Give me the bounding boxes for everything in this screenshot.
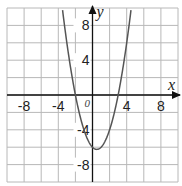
y-tick-label: 8 — [82, 17, 90, 33]
coordinate-plane: -8-44884-4-8 x y 0 — [0, 0, 182, 186]
x-tick-label: 8 — [157, 98, 165, 114]
x-tick-label: 4 — [123, 98, 131, 114]
axes — [7, 5, 181, 182]
x-axis-label: x — [167, 76, 175, 93]
y-axis-label: y — [95, 3, 105, 21]
y-axis-arrow-icon — [89, 5, 97, 14]
x-tick-label: -4 — [52, 98, 65, 114]
origin-label: 0 — [85, 97, 91, 109]
y-tick-label: 4 — [82, 52, 90, 68]
y-tick-label: -8 — [77, 157, 90, 173]
parabola-curve — [63, 10, 131, 149]
x-tick-label: -8 — [18, 98, 31, 114]
